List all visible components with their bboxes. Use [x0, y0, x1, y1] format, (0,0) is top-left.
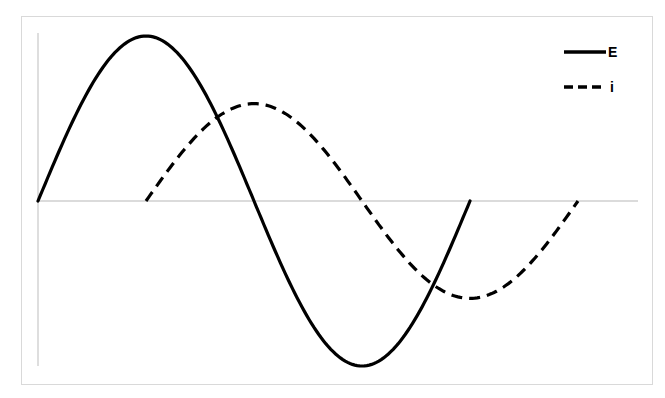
legend-label-i: i	[610, 79, 614, 95]
plot-area: E i	[0, 0, 665, 398]
legend-item-i: i	[564, 79, 614, 95]
legend-label-e: E	[608, 44, 617, 60]
legend: E i	[564, 44, 617, 95]
legend-item-e: E	[564, 44, 617, 60]
